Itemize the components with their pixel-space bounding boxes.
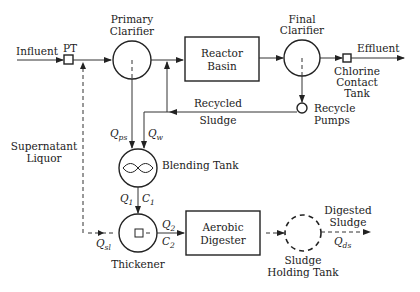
qw-label: Qw [148,127,164,142]
chlorine-tank-box-icon [343,54,351,62]
final-clarifier: Final Clarifier [280,13,325,76]
final-clarifier-label-2: Clarifier [280,24,325,36]
svg-text:Q1: Q1 [120,192,133,207]
holding-tank-label-2: Holding Tank [267,266,339,278]
chlorine-label-3: Tank [344,87,370,99]
svg-text:C2: C2 [162,235,175,250]
blending-tank: Blending Tank [119,149,239,187]
recycle-pumps: Recycle Pumps [297,102,355,126]
influent-group: Influent [16,45,63,60]
supernatant-label-1: Supernatant [11,140,78,152]
holding-tank-label-1: Sludge [285,254,322,266]
sludge-holding-tank: Sludge Holding Tank [267,215,339,278]
svg-text:Qsl: Qsl [96,237,111,252]
holding-tank-dashed-circle-icon [285,215,321,251]
svg-text:Qps: Qps [110,127,127,142]
effluent-group: Effluent [351,42,404,58]
thickener: Thickener [111,214,166,270]
svg-text:Qw: Qw [148,127,164,142]
influent-label: Influent [16,45,59,57]
reactor-basin-label-1: Reactor [201,47,244,59]
recycle-pump-icon [297,103,307,113]
aerobic-digester-box [186,211,260,255]
recycled-sludge-label-2: Sludge [200,114,237,126]
thickener-label: Thickener [111,258,166,270]
svg-text:C1: C1 [142,192,155,207]
q1-c1-label: Q1 C1 [120,192,155,207]
supernatant-label-2: Liquor [26,152,62,164]
q2-c2-label: Q2 C2 [162,218,176,250]
pt-node: PT [63,42,77,64]
recycle-pumps-label-1: Recycle [314,102,355,114]
recycled-sludge-label-1: Recycled [194,97,242,109]
aerobic-digester: Aerobic Digester [186,211,260,255]
supernatant-up-arrowhead-icon [80,62,86,69]
reactor-basin-box [185,37,259,81]
process-flow-diagram: Influent PT Primary Clarifier Reactor Ba… [0,0,420,292]
thickener-center-box-icon [135,229,143,237]
recycle-pumps-label-2: Pumps [314,114,350,126]
supernatant-liquor-label: Supernatant Liquor [11,140,78,164]
digested-sludge-label: Digested Sludge [324,204,372,228]
primary-clarifier: Primary Clarifier [110,13,155,79]
reactor-basin: Reactor Basin [185,37,259,81]
chlorine-contact-tank: Chlorine Contact Tank [334,54,380,99]
qps-label: Qps [110,127,127,142]
digested-sludge-label-1: Digested [324,204,372,216]
blending-tank-label: Blending Tank [162,159,239,171]
svg-text:Qds: Qds [334,235,351,250]
effluent-label: Effluent [357,42,400,54]
aerobic-digester-label-2: Digester [200,234,247,246]
reactor-basin-label-2: Basin [207,60,237,72]
primary-clarifier-label-2: Clarifier [110,25,155,37]
qds-label: Qds [334,235,351,250]
supernatant-arrowhead-icon [98,230,104,236]
qsl-label: Qsl [96,237,111,252]
pt-label: PT [63,42,77,54]
svg-text:Q2: Q2 [162,218,176,233]
aerobic-digester-label-1: Aerobic [201,221,243,233]
digested-sludge-label-2: Sludge [330,216,367,228]
pt-box-icon [64,55,73,64]
primary-clarifier-label-1: Primary [111,13,154,25]
